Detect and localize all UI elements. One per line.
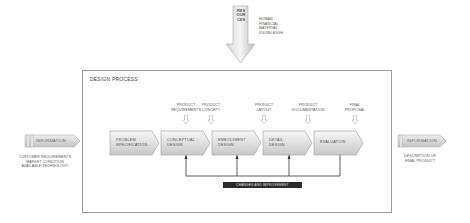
step-detail-design: DETAILDESIGN	[263, 131, 311, 155]
info-line: DESCRIPTION OF	[398, 154, 442, 159]
step-line: DESIGN	[269, 143, 285, 148]
information-input-label: INFORMATION	[36, 138, 66, 143]
step-line: DESIGN	[167, 143, 195, 148]
info-line: CUSTOMER REQUIREMENTS	[14, 155, 76, 160]
step-conceptual-design: CONCEPTUALDESIGN	[161, 131, 209, 155]
changes-and-improvement-bar: CHANGES AND IMPROVEMENT	[223, 182, 302, 188]
information-output-lines: DESCRIPTION OF FINAL PRODUCT	[398, 154, 442, 163]
info-line: AVAILABLE TECHNOLOGY	[14, 164, 76, 169]
information-input-lines: CUSTOMER REQUIREMENTS MARKET CONDITION A…	[14, 155, 76, 169]
step-evaluation: EVALUATION	[314, 131, 362, 155]
step-embodiment-design: EMBODIMENTDESIGN	[212, 131, 260, 155]
information-output-label: INFORMATION	[407, 138, 437, 143]
step-line: SPECIFICATION	[116, 143, 147, 148]
step-line: DESIGN	[218, 143, 246, 148]
feedback-connectors	[0, 0, 470, 223]
info-line: FINAL PRODUCT	[398, 159, 442, 164]
step-line: EVALUATION	[320, 140, 346, 145]
step-problem-specification: PROBLEMSPECIFICATION	[110, 131, 158, 155]
